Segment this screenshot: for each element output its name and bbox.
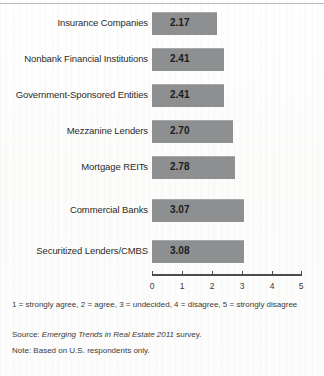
chart-row: Government-Sponsored Entities 2.41: [0, 84, 324, 106]
bar-chart-figure: Insurance Companies 2.17 Nonbank Financi…: [0, 0, 324, 376]
x-axis-tick-label: 2: [202, 281, 222, 291]
category-label: Nonbank Financial Institutions: [0, 48, 148, 70]
x-axis-tick: [152, 271, 153, 276]
top-divider-rule: [0, 3, 324, 4]
x-axis-tick: [212, 271, 213, 276]
chart-row: Securitized Lenders/CMBS 3.08: [0, 240, 324, 262]
x-axis-tick: [301, 271, 302, 276]
chart-row: Insurance Companies 2.17: [0, 12, 324, 34]
category-label: Government-Sponsored Entities: [0, 84, 148, 106]
bar-commercial-banks: [152, 199, 244, 222]
bar-value-label: 2.70: [170, 120, 189, 142]
bar-securitized-lenders-cmbs: [152, 240, 244, 263]
x-axis-tick-label: 0: [142, 281, 162, 291]
x-axis-tick-label: 4: [262, 281, 282, 291]
x-axis-tick-label: 3: [232, 281, 252, 291]
plot-area: Insurance Companies 2.17 Nonbank Financi…: [0, 12, 324, 274]
category-label: Insurance Companies: [0, 12, 148, 34]
chart-row: Commercial Banks 3.07: [0, 199, 324, 221]
chart-row: Mezzanine Lenders 2.70: [0, 120, 324, 142]
bar-value-label: 3.08: [170, 240, 189, 262]
bar-value-label: 2.17: [170, 12, 189, 34]
source-note: Source: Emerging Trends in Real Estate 2…: [12, 330, 201, 339]
x-axis-tick: [272, 271, 273, 276]
category-label: Commercial Banks: [0, 199, 148, 221]
category-label: Securitized Lenders/CMBS: [0, 240, 148, 262]
bar-mezzanine-lenders: [152, 120, 233, 143]
bar-value-label: 2.78: [170, 156, 189, 178]
x-axis-tick-label: 1: [172, 281, 192, 291]
scale-legend-note: 1 = strongly agree, 2 = agree, 3 = undec…: [12, 300, 297, 309]
source-prefix: Source:: [12, 330, 42, 339]
x-axis-line: [152, 274, 302, 276]
bar-value-label: 2.41: [170, 84, 189, 106]
bar-value-label: 2.41: [170, 48, 189, 70]
x-axis-tick: [182, 271, 183, 276]
respondents-note: Note: Based on U.S. respondents only.: [12, 346, 150, 355]
category-label: Mezzanine Lenders: [0, 120, 148, 142]
x-axis-tick-label: 5: [291, 281, 311, 291]
chart-row: Mortgage REITs 2.78: [0, 156, 324, 178]
source-title: Emerging Trends in Real Estate 2011: [42, 330, 174, 339]
bar-mortgage-reits: [152, 156, 235, 179]
bar-value-label: 3.07: [170, 199, 189, 221]
category-label: Mortgage REITs: [0, 156, 148, 178]
x-axis-tick: [242, 271, 243, 276]
source-suffix: survey.: [174, 330, 201, 339]
chart-row: Nonbank Financial Institutions 2.41: [0, 48, 324, 70]
